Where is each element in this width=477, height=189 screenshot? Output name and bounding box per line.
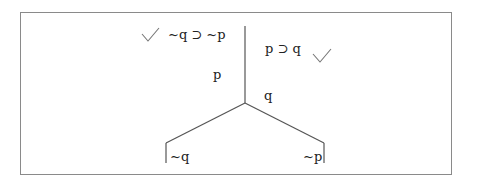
checkmark-icon xyxy=(313,49,331,62)
branch-label-left: ~q xyxy=(170,150,189,163)
branch-label-right: ~p xyxy=(303,150,322,163)
right-branch-line xyxy=(245,103,324,143)
truth-tree-lines xyxy=(0,0,477,189)
left-branch-line xyxy=(166,103,245,143)
premise-formula-1: ~q ⊃ ~p xyxy=(168,28,226,41)
checkmark-icon xyxy=(142,28,159,41)
premise-formula-2: p ⊃ q xyxy=(265,42,301,55)
trunk-label-right: q xyxy=(264,89,272,102)
trunk-label-left: p xyxy=(213,68,221,81)
